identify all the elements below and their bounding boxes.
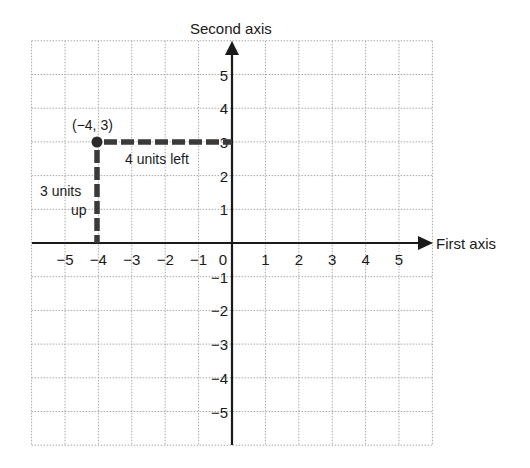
x-tick-label: −3 [123, 251, 140, 268]
coordinate-plane: First axis Second axis −5−4−3−2−1012345 … [0, 0, 530, 468]
horizontal-annotation: 4 units left [125, 151, 189, 167]
x-tick-label: −5 [56, 251, 73, 268]
y-tick-label: 1 [220, 201, 228, 218]
x-tick-label: 1 [261, 251, 269, 268]
plotted-point [92, 137, 103, 148]
x-tick-label: −2 [157, 251, 174, 268]
x-tick-labels: −5−4−3−2−1012345 [56, 251, 403, 268]
y-tick-label: −5 [211, 404, 228, 421]
x-tick-label: 5 [395, 251, 403, 268]
second-axis-label: Second axis [190, 20, 272, 37]
y-tick-label: −3 [211, 336, 228, 353]
point-label: (−4, 3) [72, 117, 113, 133]
y-tick-label: −1 [211, 269, 228, 286]
x-tick-label: −1 [190, 251, 207, 268]
x-tick-label: 0 [219, 251, 227, 268]
vertical-annotation-line1: 3 units [40, 183, 81, 199]
vertical-annotation-line2: up [71, 202, 87, 218]
x-tick-label: 2 [295, 251, 303, 268]
x-tick-label: 3 [328, 251, 336, 268]
y-tick-label: 2 [220, 168, 228, 185]
first-axis-label: First axis [436, 235, 496, 252]
coordinate-plane-figure: First axis Second axis −5−4−3−2−1012345 … [0, 0, 530, 468]
x-tick-label: −4 [90, 251, 107, 268]
y-tick-label: 4 [220, 100, 228, 117]
x-tick-label: 4 [361, 251, 369, 268]
y-tick-label: 5 [220, 67, 228, 84]
y-tick-label: −2 [211, 302, 228, 319]
second-axis-arrow-icon [225, 41, 239, 55]
y-tick-label: −4 [211, 370, 228, 387]
first-axis-arrow-icon [418, 236, 433, 250]
